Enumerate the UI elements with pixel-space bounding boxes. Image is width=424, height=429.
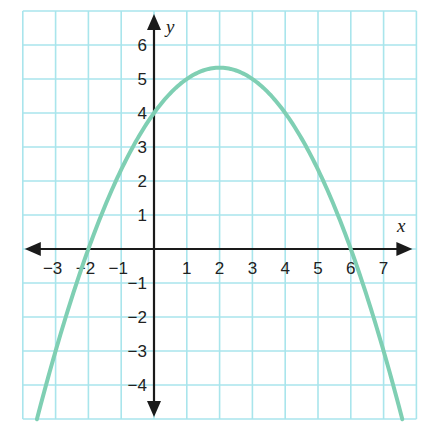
x-tick-label: 7: [379, 259, 388, 278]
x-axis-label: x: [396, 215, 406, 236]
y-tick-label: 4: [138, 104, 147, 123]
x-tick-label: −3: [43, 259, 62, 278]
y-tick-label: −3: [128, 342, 147, 361]
x-axis-right-arrow-icon: [396, 242, 412, 256]
x-tick-label: −1: [109, 259, 128, 278]
y-tick-label: −2: [128, 308, 147, 327]
y-axis-up-arrow-icon: [147, 14, 161, 30]
y-tick-label: −4: [128, 376, 147, 395]
parabola-chart: −3−2−11234567−4−3−2−1123456 x y: [0, 0, 424, 429]
x-tick-label: 3: [248, 259, 257, 278]
y-tick-label: 2: [138, 172, 147, 191]
x-tick-label: 5: [313, 259, 322, 278]
x-tick-label: 2: [215, 259, 224, 278]
y-axis-down-arrow-icon: [147, 401, 161, 417]
grid: [23, 11, 417, 419]
y-tick-label: −1: [128, 274, 147, 293]
y-axis-label: y: [164, 16, 175, 37]
x-tick-label: 1: [182, 259, 191, 278]
x-axis-left-arrow-icon: [25, 242, 41, 256]
y-tick-label: 3: [138, 138, 147, 157]
y-tick-label: 1: [138, 206, 147, 225]
y-tick-label: 5: [138, 70, 147, 89]
y-tick-label: 6: [138, 36, 147, 55]
x-tick-label: 4: [280, 259, 289, 278]
